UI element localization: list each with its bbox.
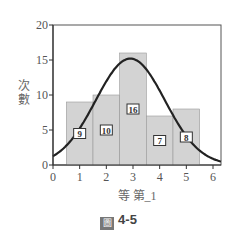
y-tick-label: 0 [42, 158, 48, 172]
y-tick-label: 5 [42, 123, 48, 137]
x-axis-label: 等 第_1 [118, 189, 157, 203]
y-tick-label: 20 [36, 18, 48, 32]
figure-caption: 圖4-5 [0, 212, 237, 230]
caption-text: 4-5 [118, 212, 137, 227]
value-label: 8 [184, 133, 189, 143]
caption-icon: 圖 [100, 217, 114, 230]
value-label: 7 [157, 136, 162, 146]
y-tick-label: 10 [36, 88, 48, 102]
x-tick-label: 3 [130, 170, 136, 184]
y-axis-label: 數 [18, 93, 30, 107]
x-tick-label: 6 [210, 170, 216, 184]
x-tick-label: 4 [157, 170, 163, 184]
histogram-chart: 9101678012345605101520等 第_1次數 [0, 0, 237, 210]
x-tick-label: 0 [50, 170, 56, 184]
y-tick-label: 15 [36, 53, 48, 67]
y-axis-label: 次 [18, 79, 30, 93]
x-tick-label: 5 [183, 170, 189, 184]
x-tick-label: 2 [103, 170, 109, 184]
value-label: 16 [129, 105, 139, 115]
value-label: 9 [77, 129, 82, 139]
x-tick-label: 1 [77, 170, 83, 184]
value-label: 10 [102, 126, 112, 136]
